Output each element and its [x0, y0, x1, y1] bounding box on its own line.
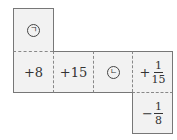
face-bottom: − 1 8	[132, 92, 173, 134]
sign-minus: −	[142, 106, 153, 121]
sign-plus: +	[140, 65, 151, 80]
denominator: 15	[151, 73, 165, 85]
fraction-one-fifteenth: 1 15	[151, 60, 165, 85]
circled-label-nieun: ㄴ	[107, 66, 120, 79]
fraction-one-eighth: 1 8	[154, 101, 163, 126]
numerator: 1	[154, 60, 163, 73]
value-plus-8: +8	[24, 65, 43, 80]
denominator: 8	[155, 114, 162, 126]
face-row-1: +8	[13, 51, 53, 93]
circled-label-giyeok: ㄱ	[27, 24, 40, 37]
face-row-4: + 1 15	[132, 51, 173, 92]
face-row-3: ㄴ	[93, 51, 133, 93]
numerator: 1	[154, 101, 163, 114]
face-top: ㄱ	[13, 8, 54, 51]
value-plus-15: +15	[60, 65, 87, 80]
face-row-2: +15	[53, 51, 93, 93]
